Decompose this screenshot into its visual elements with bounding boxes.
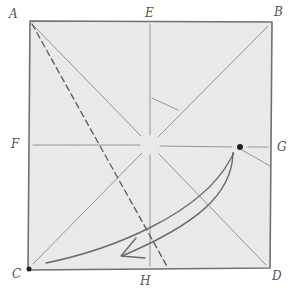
label-A: A xyxy=(9,8,18,20)
dot-G-point xyxy=(237,144,243,150)
dot-C-corner xyxy=(27,267,32,272)
label-B: B xyxy=(274,6,283,18)
label-F: F xyxy=(11,138,19,150)
label-G: G xyxy=(277,141,287,153)
fold-diagram xyxy=(0,0,294,298)
label-E: E xyxy=(145,7,154,19)
label-D: D xyxy=(272,270,282,282)
label-C: C xyxy=(12,268,21,280)
label-H: H xyxy=(140,275,150,287)
